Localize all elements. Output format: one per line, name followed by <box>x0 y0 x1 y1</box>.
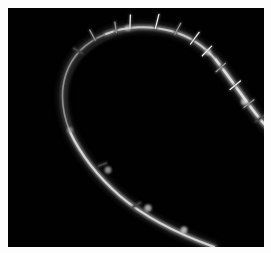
micrograph-figure: Dark-field micrograph of a single barbed… <box>0 0 271 253</box>
fiber-rendering <box>8 8 264 247</box>
image-alt-text: Dark-field micrograph of a single barbed… <box>0 0 1 1</box>
micrograph-image-field <box>8 8 264 247</box>
fiber-node-2 <box>105 167 112 174</box>
fiber-node-7 <box>241 99 247 105</box>
fiber-node-1 <box>67 127 73 133</box>
fiber-node-3 <box>144 204 151 211</box>
fiber-node-4 <box>181 227 188 234</box>
fiber-node-5 <box>125 25 131 31</box>
fiber-node-6 <box>205 49 211 55</box>
